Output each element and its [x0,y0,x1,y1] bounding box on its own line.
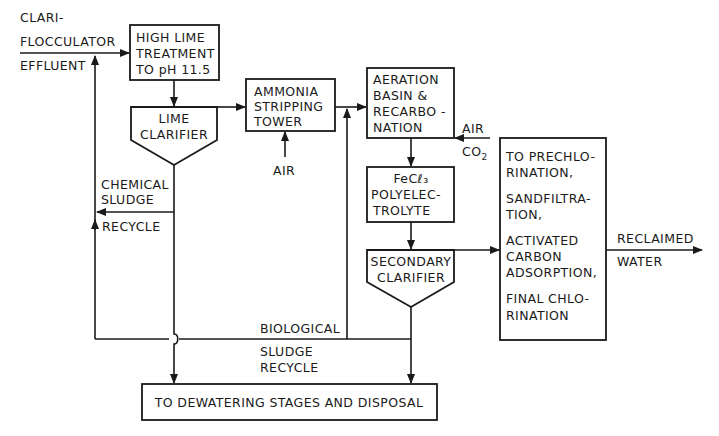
stripping-air-label: AIR [273,163,295,178]
reclaimed-label: RECLAIMED [617,231,694,246]
bio-sludge-label: SLUDGE [260,344,313,359]
dewatering-box: TO DEWATERING STAGES AND DISPOSAL [142,384,437,420]
chemical-sludge-label: CHEMICAL SLUDGE RECYCLE [101,177,169,234]
aeration-line2: BASIN & [373,88,428,103]
dewatering-label: TO DEWATERING STAGES AND DISPOSAL [154,395,424,410]
tertiary-line7: ADSORPTION, [506,265,597,280]
ammonia-line1: AMMONIA [254,84,318,99]
fecl3-line1: FeCℓ₃ [393,171,428,186]
high-lime-line1: HIGH LIME [136,30,205,45]
ammonia-stripping-tower-box: AMMONIA STRIPPING TOWER [246,79,335,131]
effluent-label-line3: EFFLUENT [20,58,86,73]
chemical-sludge-line1: CHEMICAL [101,177,169,192]
tertiary-line6: CARBON [506,249,562,264]
high-lime-line3: TO pH 11.5 [135,62,211,77]
aeration-air-label: AIR [462,121,484,136]
effluent-label-line2: FLOCCULATOR [20,34,116,49]
effluent-input-label: CLARI- FLOCCULATOR EFFLUENT [20,10,116,73]
tertiary-line4: TION, [505,207,543,222]
secondary-clarifier-line2: CLARIFIER [377,270,445,285]
biological-label: BIOLOGICAL [260,321,340,336]
fecl3-polyelectrolyte-box: FeCℓ₃ POLYELEC- TROLYTE [367,167,454,222]
tertiary-line3: SANDFILTRA- [506,191,591,206]
aeration-line4: NATION [373,120,423,135]
fecl3-line2: POLYELEC- [371,187,441,202]
lime-clarifier-line2: CLARIFIER [140,127,208,142]
high-lime-treatment-box: HIGH LIME TREATMENT TO pH 11.5 [130,25,219,80]
chemical-recycle-label: RECYCLE [102,219,160,234]
aeration-line3: RECARBO - [373,104,446,119]
aeration-basin-box: AERATION BASIN & RECARBO - NATION [367,68,454,138]
process-flow-diagram: CLARI- FLOCCULATOR EFFLUENT HIGH LIME TR… [0,0,719,436]
ammonia-line2: STRIPPING [254,99,323,114]
chemical-sludge-line2: SLUDGE [101,192,154,207]
tertiary-line8: FINAL CHLO- [506,291,589,306]
secondary-clarifier-line1: SECONDARY [371,254,452,269]
water-label: WATER [617,254,662,269]
high-lime-line2: TREATMENT [135,46,215,61]
lime-clarifier-line1: LIME [159,111,190,126]
aeration-line1: AERATION [373,72,439,87]
effluent-label-line1: CLARI- [20,10,64,25]
lime-clarifier: LIME CLARIFIER [131,107,217,165]
fecl3-line3: TROLYTE [372,203,430,218]
aeration-co2-label: CO2 [462,144,488,162]
tertiary-line9: RINATION [506,308,569,323]
tertiary-line5: ACTIVATED [506,233,578,248]
tertiary-treatment-box: TO PRECHLO- RINATION, SANDFILTRA- TION, … [500,138,606,340]
ammonia-line3: TOWER [253,114,302,129]
tertiary-line2: RINATION, [506,165,573,180]
biological-sludge-recycle-label: BIOLOGICAL SLUDGE RECYCLE [260,321,340,375]
secondary-clarifier: SECONDARY CLARIFIER [367,250,454,307]
bio-recycle-label: RECYCLE [260,360,318,375]
lime-sludge-to-dewatering-line [174,165,178,383]
tertiary-line1: TO PRECHLO- [505,149,595,164]
